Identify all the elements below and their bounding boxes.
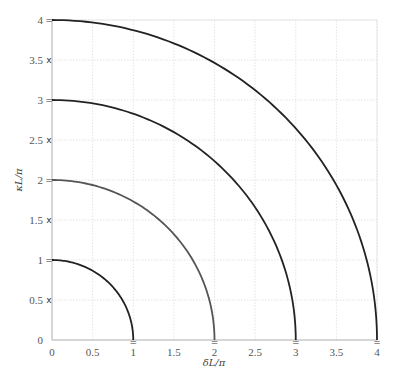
- y-marker: =: [45, 15, 53, 25]
- x-marker: =: [129, 337, 137, 347]
- axis-markers: x=x=x=x=====: [45, 15, 381, 347]
- y-marker: x: [46, 135, 52, 145]
- x-tick-label: 1: [131, 346, 137, 358]
- x-axis-label: δL/π: [203, 357, 226, 368]
- x-tick-label: 0: [49, 346, 55, 358]
- x-tick-label: 4: [374, 346, 380, 358]
- x-marker: =: [211, 337, 219, 347]
- y-tick-label: 1: [38, 254, 44, 266]
- y-tick-label: 3: [38, 94, 44, 106]
- x-tick-label: 3.5: [330, 346, 344, 358]
- x-tick-label: 0.5: [86, 346, 100, 358]
- y-marker: =: [45, 175, 53, 185]
- y-marker: x: [46, 55, 52, 65]
- y-axis-label: κL/π: [13, 168, 24, 193]
- y-tick-label: 2.5: [29, 134, 43, 146]
- x-marker: =: [373, 337, 381, 347]
- y-tick-label: 3.5: [29, 54, 43, 66]
- x-tick-label: 1.5: [167, 346, 181, 358]
- x-tick-label: 3: [293, 346, 299, 358]
- grid: [52, 20, 377, 340]
- y-marker: x: [46, 295, 52, 305]
- y-tick-label: 1.5: [29, 214, 43, 226]
- tick-labels: 00.511.522.533.5400.511.522.533.54: [29, 14, 380, 358]
- y-tick-label: 4: [38, 14, 44, 26]
- y-tick-label: 0.5: [29, 294, 43, 306]
- x-marker: =: [292, 337, 300, 347]
- chart: 00.511.522.533.5400.511.522.533.54 x=x=x…: [0, 0, 399, 386]
- y-tick-label: 2: [38, 174, 44, 186]
- x-tick-label: 2.5: [248, 346, 262, 358]
- y-marker: x: [46, 215, 52, 225]
- y-marker: =: [45, 95, 53, 105]
- y-tick-label: 0: [38, 334, 44, 346]
- y-marker: =: [45, 255, 53, 265]
